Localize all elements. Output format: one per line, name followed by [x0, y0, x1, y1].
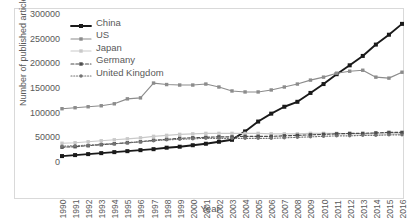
- legend-item-china[interactable]: China: [70, 16, 200, 29]
- data-point: [204, 132, 207, 135]
- legend-item-germany[interactable]: Germany: [70, 54, 200, 67]
- data-point: [60, 142, 63, 145]
- data-point: [322, 135, 325, 138]
- data-point: [152, 139, 155, 142]
- legend-swatch-icon: [70, 30, 92, 40]
- data-point: [152, 81, 155, 84]
- data-point: [99, 151, 103, 155]
- data-point: [309, 135, 312, 138]
- data-point: [243, 90, 246, 93]
- data-point: [230, 137, 233, 140]
- chart-figure: Number of published articles 05000010000…: [0, 0, 419, 222]
- data-point: [86, 144, 89, 147]
- x-tick-label: 2014: [372, 199, 381, 218]
- data-point: [139, 96, 142, 99]
- data-point: [335, 134, 338, 137]
- data-point: [217, 132, 220, 135]
- x-tick-label: 2011: [333, 200, 342, 218]
- data-point: [73, 106, 76, 109]
- data-point: [387, 133, 390, 136]
- data-point: [113, 138, 116, 141]
- legend-label: US: [96, 30, 109, 40]
- legend-item-us[interactable]: US: [70, 29, 200, 42]
- data-point: [165, 138, 168, 141]
- data-point: [374, 75, 377, 78]
- data-point: [139, 140, 142, 143]
- chart-legend: ChinaUSJapanGermanyUnited Kingdom: [70, 16, 200, 79]
- data-point: [387, 33, 391, 37]
- x-tick-label: 2016: [399, 199, 408, 218]
- data-point: [308, 91, 312, 95]
- data-point: [86, 152, 90, 156]
- data-point: [309, 78, 312, 81]
- data-point: [126, 97, 129, 100]
- data-point: [60, 154, 64, 158]
- x-tick-label: 2009: [307, 199, 316, 218]
- data-point: [361, 134, 364, 137]
- data-point: [361, 69, 364, 72]
- data-point: [60, 145, 63, 148]
- data-point: [400, 22, 404, 26]
- y-tick-label: 100000: [14, 108, 60, 117]
- data-point: [256, 90, 259, 93]
- legend-label: United Kingdom: [96, 68, 164, 78]
- data-point: [112, 150, 116, 154]
- data-point: [374, 134, 377, 137]
- data-point: [73, 153, 77, 157]
- data-point: [165, 146, 169, 150]
- data-point: [113, 102, 116, 105]
- data-point: [269, 112, 273, 116]
- data-point: [152, 135, 155, 138]
- data-point: [361, 54, 365, 58]
- data-point: [243, 132, 246, 135]
- data-point: [217, 140, 221, 144]
- data-point: [204, 137, 207, 140]
- data-point: [270, 88, 273, 91]
- data-point: [283, 85, 286, 88]
- data-point: [204, 142, 208, 146]
- legend-label: Japan: [96, 43, 122, 53]
- y-tick-label: 150000: [14, 84, 60, 93]
- legend-item-japan[interactable]: Japan: [70, 41, 200, 54]
- legend-swatch-icon: [70, 67, 92, 77]
- y-tick-label: 300000: [14, 10, 60, 19]
- data-point: [335, 72, 338, 75]
- data-point: [283, 136, 286, 139]
- y-tick-label: 0: [14, 158, 60, 167]
- data-point: [100, 143, 103, 146]
- data-point: [178, 83, 181, 86]
- legend-label: China: [96, 18, 121, 28]
- data-point: [73, 141, 76, 144]
- data-point: [348, 63, 352, 67]
- data-point: [374, 43, 378, 47]
- data-point: [126, 137, 129, 140]
- x-tick-label: 2010: [320, 199, 329, 218]
- data-point: [387, 76, 390, 79]
- data-point: [60, 107, 63, 110]
- data-point: [165, 134, 168, 137]
- x-tick-label: 1990: [59, 199, 68, 218]
- x-tick-label: 1993: [98, 199, 107, 218]
- data-point: [270, 137, 273, 140]
- x-tick-label: 1994: [111, 199, 120, 218]
- data-point: [400, 133, 403, 136]
- data-point: [138, 148, 142, 152]
- data-point: [86, 140, 89, 143]
- data-point: [73, 144, 76, 147]
- y-tick-label: 200000: [14, 59, 60, 68]
- legend-label: Germany: [96, 55, 135, 65]
- data-point: [217, 85, 220, 88]
- data-point: [178, 145, 182, 149]
- legend-swatch-icon: [70, 55, 92, 65]
- data-point: [348, 134, 351, 137]
- data-point: [296, 136, 299, 139]
- data-point: [296, 82, 299, 85]
- y-tick-label: 250000: [14, 34, 60, 43]
- legend-item-united-kingdom[interactable]: United Kingdom: [70, 66, 200, 79]
- data-point: [243, 137, 246, 140]
- data-point: [191, 83, 194, 86]
- data-point: [178, 133, 181, 136]
- y-tick-label: 50000: [14, 133, 60, 142]
- data-point: [348, 70, 351, 73]
- legend-swatch-icon: [70, 17, 92, 27]
